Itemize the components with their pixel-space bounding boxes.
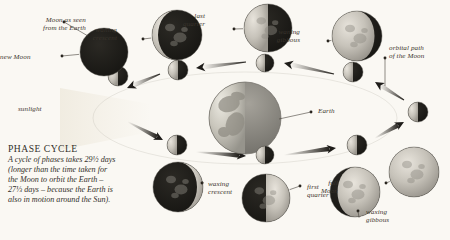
arrow-last-to-waning-crescent: [196, 61, 246, 71]
inner-moon-last-quarter: [256, 54, 274, 72]
label-sunlight: sunlight: [18, 105, 42, 113]
inner-moon-full-moon: [408, 102, 428, 122]
arrow-waning-gibbous-to-last: [284, 61, 334, 75]
arrow-waxing-gibbous-to-full: [375, 122, 404, 138]
phase-cycle-heading: PHASE CYCLE: [8, 143, 78, 154]
arrow-full-to-waning-gibbous: [375, 82, 404, 100]
arrow-first-to-waxing-gibbous: [284, 145, 336, 156]
sunlight-ray: [60, 88, 150, 150]
inner-moon-first-quarter: [256, 146, 274, 164]
phase-label-new-moon: new Moon: [0, 53, 22, 61]
phase-label-waning-gibbous: waning gibbous: [0, 28, 300, 45]
inner-moon-waxing-gibbous: [347, 135, 367, 155]
inner-moon-waxing-crescent: [167, 135, 187, 155]
phase-label-first-quarter: first quarter: [307, 183, 329, 200]
leader-line-earth: [279, 112, 311, 119]
inner-moon-waning-gibbous: [343, 62, 363, 82]
moon-phase-diagram: Moon as seen from the Earth sunlight Ear…: [0, 0, 450, 240]
label-earth: Earth: [318, 107, 335, 115]
outer-moon-waning-gibbous: [332, 11, 382, 61]
inner-moon-waning-crescent: [168, 60, 188, 80]
phase-label-full-moon: full Moon: [0, 179, 338, 196]
phase-label-last-quarter: last quarter: [0, 12, 205, 29]
phase-label-waxing-crescent: waxing crescent: [208, 180, 232, 197]
outer-moon-full-moon: [389, 147, 439, 197]
leader-line-new-moon: [62, 54, 79, 56]
phase-label-waxing-gibbous: waxing gibbous: [366, 208, 389, 225]
earth: [209, 82, 281, 154]
label-orbital-path: orbital path of the Moon: [389, 44, 424, 61]
